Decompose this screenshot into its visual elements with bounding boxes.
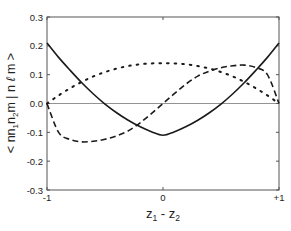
chart: 0.30.20.10.0-0.1-0.2-0.3 -10+1 z1 - z2 <… [0, 0, 291, 231]
y-tick-label: -0.1 [27, 127, 43, 138]
y-tick-label: 0.2 [30, 40, 43, 51]
x-axis-ticks: -10+1 [43, 17, 285, 203]
x-tick-label: 0 [160, 192, 165, 203]
y-tick-label: 0.3 [30, 12, 43, 23]
x-tick-label: -1 [43, 192, 51, 203]
data-series [47, 43, 279, 142]
plot-area [47, 17, 279, 190]
y-axis-label: < nn1n2m | n ℓ m > [4, 53, 20, 153]
y-tick-label: -0.3 [27, 185, 43, 196]
y-tick-label: -0.2 [27, 156, 43, 167]
x-tick-label: +1 [274, 192, 285, 203]
series-solid-line [47, 43, 279, 135]
x-axis-label: z1 - z2 [146, 206, 180, 223]
y-tick-label: 0.0 [30, 98, 43, 109]
y-tick-label: 0.1 [30, 69, 43, 80]
